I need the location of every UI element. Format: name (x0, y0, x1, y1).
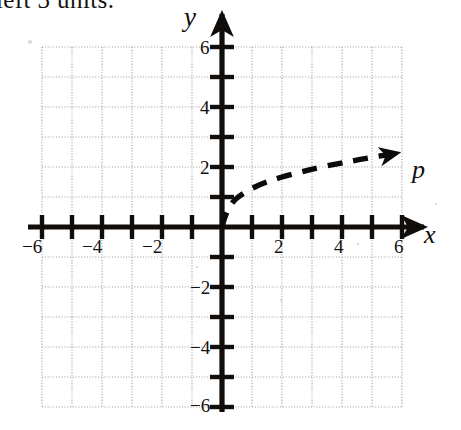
ytick-label-neg6: −6 (190, 396, 210, 415)
coordinate-plane-plot (0, 0, 461, 430)
curve-label-p: p (412, 157, 425, 183)
xtick-label-neg2: −2 (142, 237, 162, 256)
y-axis-label: y (184, 4, 196, 31)
x-axis-label: x (424, 222, 436, 248)
xtick-label-6: 6 (394, 237, 404, 256)
xtick-label-2: 2 (274, 237, 284, 256)
ytick-label-4: 4 (200, 98, 210, 117)
xtick-label-neg6: −6 (22, 237, 42, 256)
xtick-label-neg4: −4 (82, 237, 102, 256)
xtick-label-4: 4 (334, 237, 344, 256)
ytick-label-neg4: −4 (190, 338, 210, 357)
figure-canvas: left 3 units. (0, 0, 461, 430)
ytick-label-6: 6 (200, 38, 210, 57)
ytick-label-neg2: −2 (190, 278, 210, 297)
ytick-label-2: 2 (200, 158, 210, 177)
